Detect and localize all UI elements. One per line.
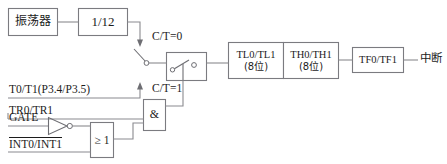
timer-counter-diagram: 振荡器 1/12 TL0/TL1 (8位) TH0/TH1 (8位) TF0/T… xyxy=(0,0,447,164)
timer-high-label: TH0/TH1 (8位) xyxy=(283,42,339,79)
timer-low-label: TL0/TL1 (8位) xyxy=(228,42,284,79)
knife-switch-pivot-icon xyxy=(144,61,149,66)
inverter-triangle-icon xyxy=(49,118,68,135)
switch-right-terminal-icon xyxy=(192,63,197,68)
signal-label-t0-t1: T0/T1(P3.4/P3.5) xyxy=(9,84,90,96)
arrow-up-icon xyxy=(137,82,143,90)
switch-left-terminal-icon xyxy=(170,68,174,72)
signal-label-gate: GATE xyxy=(9,112,38,124)
divider-label: 1/12 xyxy=(78,8,128,36)
wire-or-to-and xyxy=(114,123,144,139)
signal-label-ct-zero: C/T=0 xyxy=(152,31,182,43)
oscillator-label: 振荡器 xyxy=(8,8,58,36)
knife-switch-icon xyxy=(134,49,146,62)
selector-switch-box xyxy=(167,53,207,81)
arrow-down-icon xyxy=(137,40,143,48)
diagram-canvas xyxy=(0,0,447,164)
signal-label-ct-one: C/T=1 xyxy=(152,83,182,95)
signal-label-int0-int1: INT0/INT1 xyxy=(9,137,62,151)
wire-divider-to-switch xyxy=(128,22,141,41)
flag-label: TF0/TF1 xyxy=(352,47,404,73)
and-gate-label: & xyxy=(143,99,166,131)
signal-label-interrupt: 中断 xyxy=(420,53,442,65)
or-gate-label: ≥ 1 xyxy=(90,122,114,158)
inverter-bubble-icon xyxy=(67,123,72,128)
